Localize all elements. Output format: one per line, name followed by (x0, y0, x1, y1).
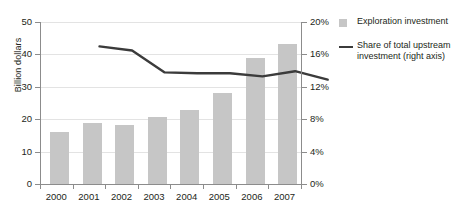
y-axis-label-left: 10 (14, 146, 32, 157)
y-tick-left (35, 119, 40, 120)
legend-label-share-line2: investment (right axis) (339, 51, 454, 63)
y-axis-left-line (40, 22, 41, 185)
y-axis-right-line (301, 22, 302, 185)
legend-bar-swatch-icon (339, 19, 347, 27)
x-tick (105, 185, 106, 189)
x-tick (40, 185, 41, 189)
legend-item-exploration-investment: Exploration investment (339, 16, 454, 28)
y-axis-label-right: 16% (310, 48, 336, 59)
legend-label-exploration-investment: Exploration investment (339, 16, 454, 28)
x-axis-label-2007: 2007 (265, 191, 305, 202)
y-tick-right (302, 22, 307, 23)
gridline (40, 22, 301, 23)
x-tick (236, 185, 237, 189)
y-axis-label-left: 50 (14, 16, 32, 27)
y-tick-right (302, 152, 307, 153)
legend-label-share-line1: Share of total upstream (339, 40, 454, 52)
plot-area (40, 22, 301, 184)
y-tick-left (35, 54, 40, 55)
y-tick-left (35, 87, 40, 88)
y-tick-left (35, 152, 40, 153)
y-axis-label-right: 4% (310, 146, 336, 157)
chart-legend: Exploration investment Share of total up… (339, 16, 454, 74)
x-tick (301, 185, 302, 189)
x-tick (203, 185, 204, 189)
y-tick-right (302, 54, 307, 55)
y-axis-label-right: 8% (310, 113, 336, 124)
y-tick-right (302, 87, 307, 88)
y-axis-label-left: 0 (14, 178, 32, 189)
y-tick-left (35, 22, 40, 23)
y-axis-label-right: 12% (310, 81, 336, 92)
bar-2000 (50, 132, 69, 184)
chart-container: Billion dollars 50 40 30 20 10 0 (0, 0, 454, 216)
x-tick (268, 185, 269, 189)
y-axis-label-left: 30 (14, 81, 32, 92)
y-tick-right (302, 119, 307, 120)
x-tick (170, 185, 171, 189)
legend-line-swatch-icon (339, 46, 353, 48)
y-axis-label-right: 0% (310, 178, 336, 189)
y-axis-label-left: 40 (14, 48, 32, 59)
y-tick-right (302, 184, 307, 185)
x-tick (138, 185, 139, 189)
y-axis-label-right: 20% (310, 16, 336, 27)
y-axis-label-left: 20 (14, 113, 32, 124)
legend-item-share-of-upstream: Share of total upstream investment (righ… (339, 40, 454, 63)
x-tick (73, 185, 74, 189)
